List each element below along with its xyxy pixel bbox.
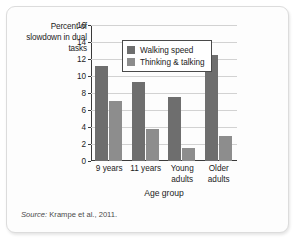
y-tick-label: 4 <box>81 123 86 132</box>
bar <box>182 148 195 161</box>
source-note: Source: Krampe et al., 2011. <box>21 210 117 219</box>
bar-chart: Percent of slowdown in dual tasks 024681… <box>7 7 290 234</box>
y-tick-label: 16 <box>77 21 86 30</box>
x-axis-label: Age group <box>91 188 237 198</box>
y-tick-label: 12 <box>77 55 86 64</box>
y-tick-mark <box>88 161 91 162</box>
chart-legend: Walking speedThinking & talking <box>122 40 212 72</box>
y-tick-label: 8 <box>81 89 86 98</box>
figure-card: Percent of slowdown in dual tasks 024681… <box>6 6 289 233</box>
bar <box>219 136 232 161</box>
y-tick-label: 6 <box>81 106 86 115</box>
bar <box>168 97 181 161</box>
bar <box>132 82 145 161</box>
source-citation: Krampe et al., 2011. <box>47 210 117 219</box>
y-tick-label: 10 <box>77 72 86 81</box>
bar <box>95 66 108 161</box>
bar <box>146 129 159 161</box>
y-tick-label: 2 <box>81 140 86 149</box>
source-prefix: Source: <box>21 210 47 219</box>
legend-label: Walking speed <box>140 46 193 55</box>
legend-swatch-icon <box>127 46 135 54</box>
legend-item: Walking speed <box>127 44 205 56</box>
y-tick-label: 14 <box>77 38 86 47</box>
legend-swatch-icon <box>127 58 135 66</box>
bar <box>109 101 122 161</box>
legend-item: Thinking & talking <box>127 56 205 68</box>
legend-label: Thinking & talking <box>140 58 205 67</box>
x-tick-label: Older adults <box>195 164 244 185</box>
